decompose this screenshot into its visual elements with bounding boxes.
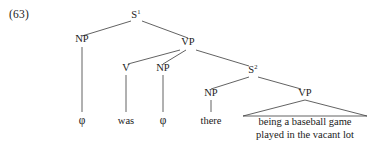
branch-vp-to-v: [128, 50, 180, 64]
node-vp-matrix: VP: [181, 36, 195, 47]
terminal-predicate-line-1: being a baseball game: [256, 115, 354, 128]
example-number: (63): [9, 8, 29, 20]
node-vp-embedded: VP: [298, 87, 312, 98]
node-v: V: [122, 62, 130, 73]
node-s2-superscript: 2: [254, 63, 257, 70]
node-np-object: NP: [156, 62, 170, 73]
terminal-subject-empty: φ: [79, 114, 86, 126]
branch-vp-to-s2: [196, 50, 249, 66]
terminal-verb: was: [118, 115, 134, 126]
node-np-subject: NP: [75, 33, 89, 44]
syntax-tree-figure: (63) S1 NP VP V NP S2 NP VP φ was φ ther…: [0, 0, 372, 151]
terminal-object-empty: φ: [160, 114, 167, 126]
terminal-predicate-phrase: being a baseball game played in the vaca…: [256, 115, 354, 141]
node-s1-superscript: 1: [137, 8, 140, 15]
node-s2: S2: [248, 64, 257, 75]
branch-s2-to-vp-embedded: [258, 77, 301, 89]
terminal-expletive: there: [201, 115, 222, 126]
triangle-vp-embedded: [243, 100, 367, 116]
branch-s1-to-np-subject: [82, 21, 131, 36]
node-s1: S1: [131, 9, 140, 20]
terminal-predicate-line-2: played in the vacant lot: [256, 128, 354, 141]
node-np-embedded: NP: [204, 87, 218, 98]
